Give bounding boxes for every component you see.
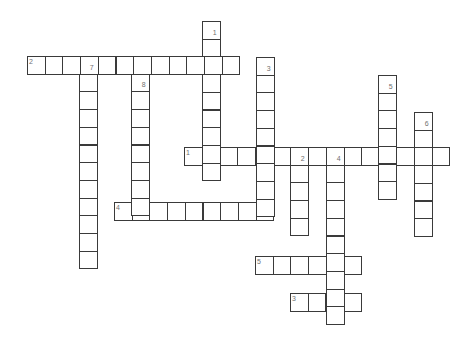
crossword-cell[interactable] [202,39,221,58]
crossword-cell[interactable] [131,91,150,110]
crossword-cell[interactable] [378,128,397,147]
crossword-cell[interactable] [326,236,345,255]
crossword-cell[interactable] [79,251,98,270]
crossword-cell[interactable] [290,293,309,312]
crossword-cell[interactable] [326,182,345,201]
crossword-cell[interactable] [308,256,327,275]
crossword-cell[interactable] [219,147,238,166]
crossword-cell[interactable] [414,147,433,166]
crossword-cell[interactable] [45,56,64,75]
crossword-cell[interactable] [79,145,98,164]
crossword-cell[interactable] [185,202,204,221]
crossword-cell[interactable] [414,165,433,184]
crossword-cell[interactable] [256,163,275,182]
crossword-cell[interactable] [149,202,168,221]
crossword-cell[interactable] [131,180,150,199]
crossword-cell[interactable] [290,200,309,219]
crossword-cell[interactable] [290,218,309,237]
crossword-cell[interactable] [290,147,309,166]
crossword-cell[interactable] [378,181,397,200]
crossword-cell[interactable] [255,256,274,275]
crossword-cell[interactable] [202,92,221,111]
crossword-cell[interactable] [273,256,292,275]
crossword-cell[interactable] [204,56,223,75]
crossword-cell[interactable] [256,57,275,76]
crossword-cell[interactable] [202,145,221,164]
crossword-cell[interactable] [378,146,397,165]
crossword-cell[interactable] [116,56,135,75]
crossword-cell[interactable] [256,181,275,200]
crossword-cell[interactable] [290,165,309,184]
crossword-cell[interactable] [222,56,241,75]
crossword-cell[interactable] [256,110,275,129]
crossword-cell[interactable] [203,202,222,221]
crossword-cell[interactable] [378,164,397,183]
crossword-cell[interactable] [79,109,98,128]
crossword-cell[interactable] [256,75,275,94]
crossword-cell[interactable] [79,74,98,93]
crossword-cell[interactable] [396,147,415,166]
crossword-cell[interactable] [273,147,292,166]
crossword-cell[interactable] [414,218,433,237]
crossword-cell[interactable] [131,109,150,128]
crossword-cell[interactable] [131,74,150,93]
crossword-cell[interactable] [238,202,257,221]
crossword-cell[interactable] [27,56,46,75]
crossword-cell[interactable] [131,198,150,217]
crossword-cell[interactable] [308,147,327,166]
crossword-cell[interactable] [79,91,98,110]
crossword-cell[interactable] [237,147,256,166]
crossword-cell[interactable] [256,199,275,218]
crossword-cell[interactable] [131,145,150,164]
crossword-cell[interactable] [114,202,133,221]
crossword-cell[interactable] [202,127,221,146]
crossword-cell[interactable] [79,162,98,181]
crossword-cell[interactable] [344,256,363,275]
crossword-cell[interactable] [326,200,345,219]
crossword-cell[interactable] [290,182,309,201]
crossword-cell[interactable] [186,56,205,75]
crossword-cell[interactable] [326,253,345,272]
crossword-cell[interactable] [79,198,98,217]
crossword-cell[interactable] [414,183,433,202]
crossword-cell[interactable] [326,147,345,166]
crossword-cell[interactable] [343,293,362,312]
crossword-cell[interactable] [220,202,239,221]
crossword-cell[interactable] [414,201,433,220]
crossword-cell[interactable] [256,92,275,111]
crossword-cell[interactable] [202,21,221,40]
crossword-cell[interactable] [151,56,170,75]
crossword-cell[interactable] [256,146,275,165]
crossword-cell[interactable] [378,110,397,129]
crossword-cell[interactable] [326,218,345,237]
crossword-cell[interactable] [414,112,433,131]
crossword-cell[interactable] [308,293,327,312]
crossword-cell[interactable] [80,56,99,75]
crossword-cell[interactable] [79,127,98,146]
crossword-cell[interactable] [326,306,345,325]
crossword-cell[interactable] [378,75,397,94]
crossword-cell[interactable] [326,165,345,184]
crossword-cell[interactable] [256,128,275,147]
crossword-cell[interactable] [432,147,451,166]
crossword-cell[interactable] [131,162,150,181]
crossword-cell[interactable] [167,202,186,221]
crossword-cell[interactable] [184,147,203,166]
crossword-cell[interactable] [202,163,221,182]
crossword-cell[interactable] [169,56,188,75]
crossword-cell[interactable] [62,56,81,75]
crossword-cell[interactable] [343,147,362,166]
crossword-cell[interactable] [79,233,98,252]
crossword-cell[interactable] [326,271,345,290]
crossword-cell[interactable] [202,110,221,129]
crossword-cell[interactable] [414,130,433,149]
crossword-cell[interactable] [290,256,309,275]
crossword-cell[interactable] [378,93,397,112]
crossword-cell[interactable] [133,56,152,75]
crossword-cell[interactable] [361,147,380,166]
crossword-cell[interactable] [98,56,117,75]
crossword-cell[interactable] [79,215,98,234]
crossword-cell[interactable] [326,289,345,308]
crossword-cell[interactable] [79,180,98,199]
crossword-cell[interactable] [131,127,150,146]
